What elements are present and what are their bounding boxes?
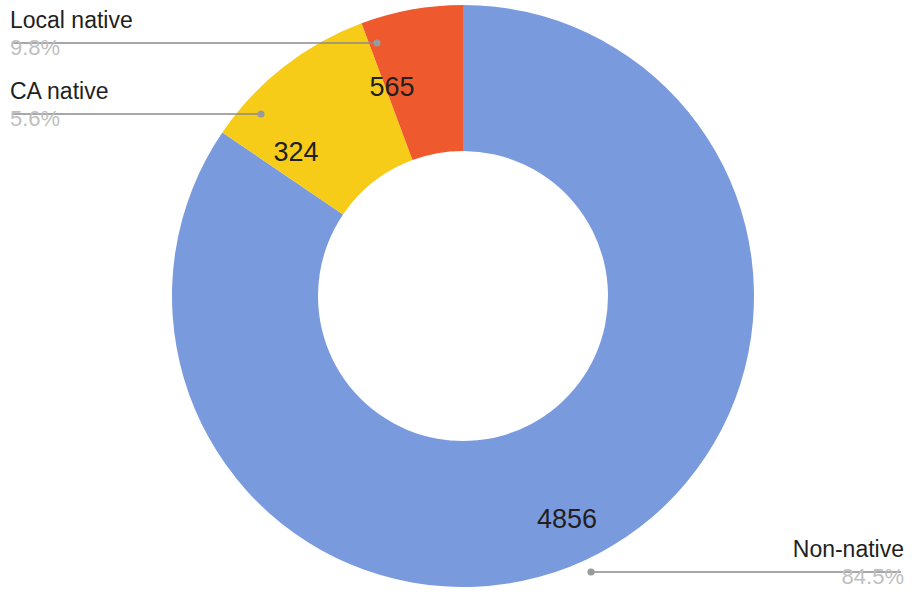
callout-ca-native-label: CA native <box>10 77 108 105</box>
leader-dot-local-native <box>373 39 380 46</box>
callout-non-native-label: Non-native <box>793 535 904 563</box>
callout-ca-native-percent: 5.6% <box>10 105 108 133</box>
donut-slices <box>172 5 754 587</box>
donut-chart: Local native 9.8% CA native 5.6% Non-nat… <box>0 0 912 613</box>
slice-value-local-native: 565 <box>369 72 414 102</box>
leader-dot-non-native <box>587 568 594 575</box>
callout-local-native-percent: 9.8% <box>10 34 133 62</box>
slice-value-non-native: 4856 <box>537 504 597 534</box>
callout-non-native: Non-native 84.5% <box>793 535 904 591</box>
callout-non-native-percent: 84.5% <box>793 563 904 591</box>
callout-local-native-label: Local native <box>10 6 133 34</box>
donut-chart-svg <box>0 0 912 613</box>
leader-dot-ca-native <box>257 110 264 117</box>
slice-value-ca-native: 324 <box>273 137 318 167</box>
callout-local-native: Local native 9.8% <box>10 6 133 62</box>
callout-ca-native: CA native 5.6% <box>10 77 108 133</box>
